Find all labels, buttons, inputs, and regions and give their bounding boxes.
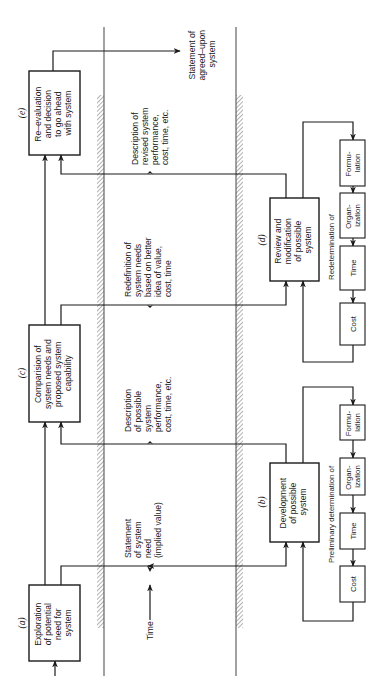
system-development-diagram: Time (a) Exploration of potential need f… bbox=[0, 0, 378, 678]
stage-c-box: (c) Comparision of system needs and prop… bbox=[17, 325, 80, 422]
time-boundary-right bbox=[236, 27, 243, 676]
stage-d-label: (d) bbox=[257, 234, 268, 245]
redet-organization-text: Organ- ization bbox=[344, 202, 362, 228]
stage-d-box: (d) Review and modification of possible … bbox=[257, 198, 319, 281]
flow-c-to-d-label: Redefinition of system needs based on be… bbox=[123, 235, 173, 297]
flow-d-to-e bbox=[61, 155, 286, 198]
prelim-time-text: Time bbox=[349, 522, 358, 539]
flow-e-out-label: Statement of agreed–upon system bbox=[187, 27, 217, 80]
stage-a-label: (a) bbox=[17, 617, 28, 628]
time-label: Time bbox=[145, 621, 155, 640]
stage-e-box: (e) Re–evaluation and decision to go ahe… bbox=[17, 71, 80, 155]
flow-d-to-e-label: Description of revised system performanc… bbox=[130, 105, 170, 165]
redetermination-title: Redetermination of bbox=[327, 213, 336, 280]
flow-b-to-c-label: Description of possible system performan… bbox=[123, 377, 173, 432]
redet-time-text: Time bbox=[349, 259, 358, 276]
preliminary-title: Preliminary determination of bbox=[327, 465, 336, 563]
stage-e-text: Re–evaluation and decision to go ahead w… bbox=[33, 84, 73, 141]
flow-a-to-b-label: Statement of system need (implied value) bbox=[123, 502, 163, 558]
flow-a-to-b-arrowhead bbox=[147, 566, 153, 572]
stage-b-box: (b) Development of possible system bbox=[257, 463, 319, 542]
flow-c-to-d bbox=[61, 281, 286, 325]
time-boundary-left bbox=[97, 27, 104, 676]
stage-c-label: (c) bbox=[17, 368, 28, 379]
flow-a-to-b bbox=[61, 542, 286, 585]
flow-b-to-c bbox=[61, 422, 286, 463]
stage-a-box: (a) Exploration of potential need for sy… bbox=[17, 585, 80, 661]
prelim-cost-text: Cost bbox=[349, 575, 358, 592]
prelim-organization-text: Organ- ization bbox=[344, 463, 362, 489]
redet-cost-text: Cost bbox=[349, 315, 358, 332]
stage-b-label: (b) bbox=[257, 496, 268, 507]
stage-e-label: (e) bbox=[17, 108, 28, 119]
time-axis-arrow: Time bbox=[145, 585, 155, 640]
flow-e-out bbox=[53, 51, 180, 71]
